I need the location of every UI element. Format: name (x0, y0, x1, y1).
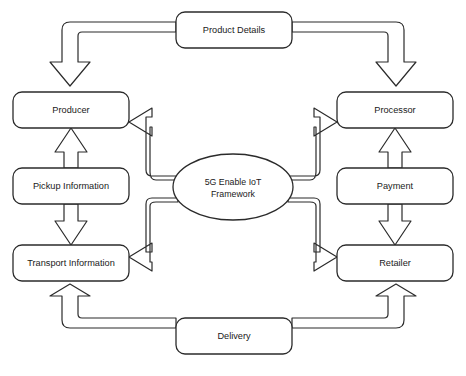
node-payment[interactable]: Payment (337, 168, 453, 204)
retailer-label: Retailer (379, 258, 411, 268)
iot-framework-label-line2: Framework (211, 189, 256, 199)
node-producer[interactable]: Producer (13, 92, 129, 128)
pickup-information-label: Pickup Information (33, 181, 109, 191)
delivery-label: Delivery (217, 331, 251, 341)
edge-framework-to-transport-information (129, 198, 178, 271)
iot-framework-label-line1: 5G Enable IoT (205, 177, 262, 187)
node-retailer[interactable]: Retailer (337, 245, 453, 281)
product-details-label: Product Details (203, 25, 266, 35)
payment-label: Payment (377, 181, 414, 191)
edge-framework-to-retailer (288, 198, 337, 271)
node-delivery[interactable]: Delivery (176, 318, 292, 354)
iot-framework-ellipse[interactable] (173, 154, 293, 220)
edge-framework-to-processor (288, 108, 337, 180)
edge-product-details-to-producer (50, 22, 176, 86)
edge-delivery-to-retailer (292, 284, 416, 328)
edge-framework-to-producer (129, 108, 178, 180)
edge-payment-to-retailer (379, 204, 411, 245)
node-product-details[interactable]: Product Details (176, 12, 292, 48)
node-processor[interactable]: Processor (337, 92, 453, 128)
processor-label: Processor (374, 105, 415, 115)
node-iot-framework-hub[interactable]: 5G Enable IoT Framework (173, 154, 293, 220)
edge-payment-to-processor (379, 128, 411, 168)
edge-pickup-information-to-producer (55, 128, 87, 168)
edge-product-details-to-processor (292, 22, 416, 86)
node-transport-information[interactable]: Transport Information (13, 245, 129, 281)
supply-chain-flow-diagram: Product Details Producer Pickup Informat… (0, 0, 466, 376)
figure-caption (0, 364, 466, 376)
transport-information-label: Transport Information (27, 258, 115, 268)
node-pickup-information[interactable]: Pickup Information (13, 168, 129, 204)
producer-label: Producer (52, 105, 89, 115)
diagram-canvas: Product Details Producer Pickup Informat… (0, 0, 466, 376)
edge-delivery-to-transport-information (50, 284, 176, 328)
edge-pickup-information-to-transport-information (55, 204, 87, 245)
